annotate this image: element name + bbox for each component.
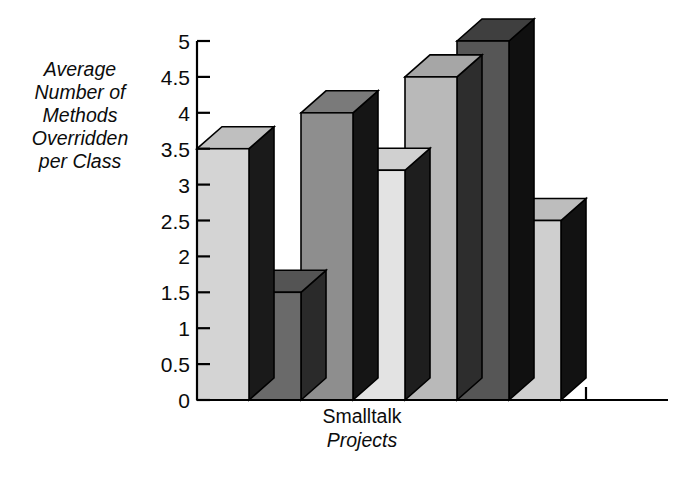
y-axis-tick-label: 1.5 — [150, 282, 190, 303]
x-axis-title-line: Smalltalk — [252, 404, 472, 428]
y-axis-tick-label: 4 — [150, 102, 190, 123]
y-axis-tick-label: 0 — [150, 390, 190, 411]
y-axis-tick-label: 3 — [150, 174, 190, 195]
bar-side-face — [457, 55, 482, 400]
bar-side-face — [353, 91, 378, 400]
y-axis-tick-label: 0.5 — [150, 354, 190, 375]
y-axis-tick-label: 2 — [150, 246, 190, 267]
bars-layer — [197, 19, 586, 400]
bar-side-face — [509, 19, 534, 400]
y-axis-tick-label: 5 — [150, 31, 190, 52]
bar-side-face — [249, 127, 274, 400]
chart-figure: Average Number of Methods Overridden per… — [0, 0, 678, 477]
y-axis-tick-label: 1 — [150, 318, 190, 339]
x-axis-title-line: Projects — [252, 428, 472, 452]
y-axis-tick-label: 3.5 — [150, 138, 190, 159]
bar-front-face — [197, 149, 249, 400]
bar-side-face — [561, 199, 586, 401]
bar-side-face — [405, 148, 430, 400]
y-axis-tick-label: 2.5 — [150, 210, 190, 231]
x-axis-title: Smalltalk Projects — [252, 404, 472, 452]
y-axis-tick-label: 4.5 — [150, 66, 190, 87]
bar — [197, 127, 274, 400]
